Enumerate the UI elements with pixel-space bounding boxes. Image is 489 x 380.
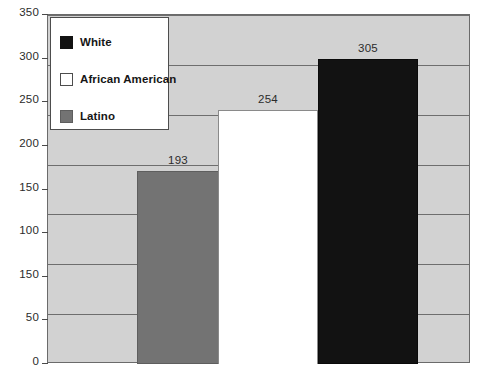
y-axis-tick-label: 50 — [6, 311, 39, 323]
y-axis-tick-label: 150 — [6, 181, 39, 193]
y-axis-tick-mark — [42, 145, 48, 146]
bar-latino — [137, 171, 219, 364]
legend-item-label: White — [80, 36, 112, 48]
y-axis-tick-label: 350 — [6, 6, 39, 18]
legend-item-latino: Latino — [60, 101, 168, 131]
bar-value-label: 254 — [218, 93, 318, 105]
legend-item-african-american: African American — [60, 64, 168, 94]
legend-item-white: White — [60, 27, 168, 57]
chart-canvas: 350300250200150100150500 193254305 White… — [0, 0, 489, 380]
y-axis-tick-mark — [42, 58, 48, 59]
y-axis-tick-mark — [42, 363, 48, 364]
y-axis-tick-mark — [42, 101, 48, 102]
gridline — [48, 15, 469, 16]
bar-white — [318, 59, 418, 364]
legend-item-label: African American — [80, 73, 176, 85]
y-axis-tick-mark — [42, 232, 48, 233]
bar-african-american — [218, 110, 318, 364]
black-swatch-icon — [60, 36, 73, 49]
y-axis-tick-label: 200 — [6, 137, 39, 149]
bar-value-label: 305 — [318, 42, 418, 54]
y-axis-tick-label: 150 — [6, 268, 39, 280]
y-axis-tick-label: 300 — [6, 50, 39, 62]
y-axis-tick-mark — [42, 14, 48, 15]
white-swatch-icon — [60, 73, 73, 86]
legend-item-label: Latino — [80, 110, 115, 122]
y-axis-tick-label: 0 — [6, 355, 39, 367]
legend: White African American Latino — [50, 17, 169, 130]
y-axis-tick-label: 250 — [6, 93, 39, 105]
y-axis-tick-mark — [42, 319, 48, 320]
gray-swatch-icon — [60, 110, 73, 123]
y-axis-tick-label: 100 — [6, 224, 39, 236]
y-axis-tick-mark — [42, 189, 48, 190]
bar-value-label: 193 — [137, 154, 219, 166]
y-axis-tick-mark — [42, 276, 48, 277]
